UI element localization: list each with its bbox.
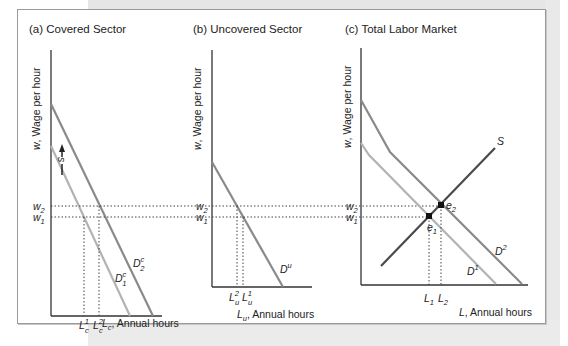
- panel-a-title: (a) Covered Sector: [29, 23, 126, 35]
- shift-label: s: [56, 157, 68, 163]
- shift-arrow-icon: s: [56, 144, 68, 175]
- panel-b-x-axis-label: Lu, Annual hours: [237, 308, 314, 323]
- panel-c-title: (c) Total Labor Market: [345, 23, 457, 35]
- panel-a-xlabel: Lc, Annual hours: [102, 317, 179, 332]
- label-du: Du: [280, 261, 293, 275]
- equilibrium-point-e1: [426, 213, 432, 219]
- demand-curve-d1c: [51, 146, 130, 316]
- tick-lc1: L1c: [79, 317, 89, 335]
- panel-b-y-axis-label: w, Wage per hour: [191, 67, 203, 150]
- label-e2: e2: [446, 199, 457, 214]
- equilibrium-point-e2: [438, 202, 444, 208]
- panel-c-y-axis-label: w, Wage per hour: [341, 65, 353, 148]
- label-d2c: Dc2: [133, 255, 145, 273]
- tick-lu2: L2u: [229, 289, 240, 307]
- label-s: S: [497, 135, 504, 147]
- label-d2: D2: [495, 243, 508, 257]
- panel-a-y-axis-label: w, Wage per hour: [30, 67, 42, 150]
- panel-b-title: (b) Uncovered Sector: [193, 23, 302, 35]
- panel-uncovered-sector: (b) Uncovered Sector w, Wage per hour w2…: [191, 23, 314, 323]
- labor-market-diagram: (a) Covered Sector w, Wage per hour s w2…: [0, 0, 568, 346]
- tick-lu1: L1u: [242, 289, 253, 307]
- panel-c-x-axis-label: L, Annual hours: [459, 306, 532, 318]
- label-d1: D1: [467, 263, 479, 277]
- demand-curve-d2c: [51, 104, 153, 316]
- panel-covered-sector: (a) Covered Sector w, Wage per hour s w2…: [29, 23, 162, 335]
- demand-curve-du: [212, 162, 283, 287]
- tick-l2: L2: [438, 292, 449, 307]
- tick-l1: L1: [424, 292, 434, 307]
